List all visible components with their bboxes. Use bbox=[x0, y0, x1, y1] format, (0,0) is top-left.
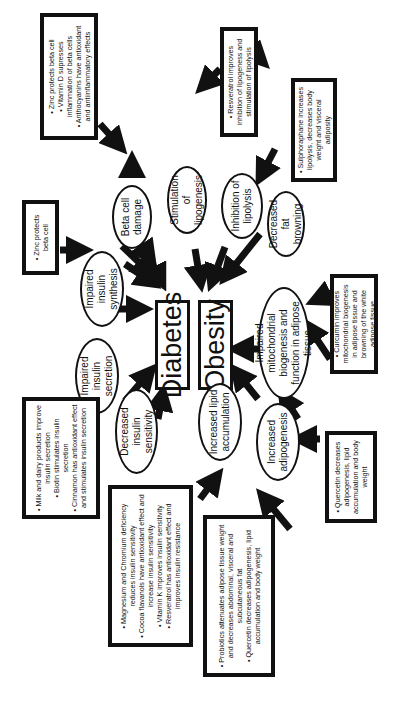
node-label: Beta cell damage bbox=[120, 191, 144, 243]
obesity-label: Obesity bbox=[200, 299, 231, 391]
intervention-item: • Zinc protects beta cell bbox=[32, 207, 50, 268]
node-label: Impaired mitochondrial biogenesis and fu… bbox=[254, 293, 314, 393]
node-label: Stimulation of lipogenesis bbox=[169, 172, 205, 228]
node-label: Increased adipogenesis bbox=[266, 409, 290, 475]
inhibition-of-lipolysis-node: Inhibition of lipolysis bbox=[221, 173, 263, 239]
lipolysis-interventions: • Sulphoraphane increases lipolysis, dec… bbox=[291, 78, 337, 182]
stimulation-of-lipogenesis-node: Stimulation of lipogenesis bbox=[167, 166, 207, 234]
intervention-item: • Cocoa flavanols have antioxidant effec… bbox=[137, 492, 155, 640]
decreased-insulin-sensitivity-node: Decreased insulin sensitivity bbox=[115, 389, 158, 474]
intervention-item: • Quercetin decreases adipogenesis, lipi… bbox=[244, 522, 262, 670]
intervention-item: • Biotin stimulates insulin secretion bbox=[52, 404, 70, 512]
impaired-insulin-synthesis-node: Impaired insulin synthesis bbox=[80, 251, 124, 327]
intervention-item: • Resveratrol improves inhibition of lip… bbox=[226, 34, 253, 130]
node-label: Impaired insulin synthesis bbox=[84, 257, 120, 321]
intervention-item: • Sulphoraphane increases lipolysis, dec… bbox=[296, 85, 332, 175]
obesity-box: Obesity bbox=[198, 300, 233, 390]
insulin-synthesis-interventions: • Zinc protects beta cell bbox=[22, 200, 59, 275]
intervention-item: • Magnesium and Chromium deficiency redu… bbox=[119, 492, 137, 640]
lipid-accumulation-interventions: • Probiotics attenuates adipose tissue w… bbox=[203, 515, 275, 677]
intervention-item: • Vitamin D supresses inflammation of be… bbox=[56, 20, 74, 133]
node-label: Decreased insulin sensitivity bbox=[119, 395, 155, 468]
impaired-mitochondrial-node: Impaired mitochondrial biogenesis and fu… bbox=[258, 287, 310, 399]
intervention-item: • Anthocyanins have antioxidant and anti… bbox=[74, 20, 92, 133]
mitochondrial-interventions: • Curcumin improves mitochondrial biogen… bbox=[330, 274, 378, 374]
insulin-sensitivity-interventions: • Magnesium and Chromium deficiency redu… bbox=[108, 485, 193, 647]
insulin-secretion-interventions: • Milk and dairy products improve insuli… bbox=[22, 397, 100, 519]
increased-adipogenesis-node: Increased adipogenesis bbox=[256, 403, 300, 481]
node-label: Inhibition of lipolysis bbox=[230, 179, 254, 233]
node-label: Decreased fat browning bbox=[268, 197, 304, 251]
lipogenesis-interventions: • Resveratrol improves inhibition of lip… bbox=[220, 27, 258, 137]
diabetes-label: Diabetes bbox=[157, 292, 188, 399]
beta-cell-damage-node: Beta cell damage bbox=[112, 185, 152, 249]
diagram-canvas: Diabetes Obesity Beta cell damage Impair… bbox=[0, 0, 403, 719]
intervention-item: • Probiotics attenuates adipose tissue w… bbox=[217, 522, 244, 670]
intervention-item: • Vitamin K improves insulin sensitivity bbox=[155, 492, 164, 640]
intervention-item: • Curcumin improves mitochondrial biogen… bbox=[332, 281, 377, 367]
intervention-item: • Resveratrol has antioxidant effect and… bbox=[164, 492, 182, 640]
intervention-item: • Zinc protects beta cell bbox=[47, 20, 56, 133]
node-label: Increased lipid accumulation bbox=[208, 389, 232, 455]
increased-lipid-accumulation-node: Increased lipid accumulation bbox=[198, 383, 242, 461]
intervention-item: • Milk and dairy products improve insuli… bbox=[34, 404, 52, 512]
beta-cell-interventions: • Zinc protects beta cell • Vitamin D su… bbox=[40, 13, 98, 140]
intervention-item: • Cinnamon has antioxidant effect and st… bbox=[70, 404, 88, 512]
diabetes-box: Diabetes bbox=[155, 300, 190, 390]
adipogenesis-interventions: • Quercetin decreases adipogenesis, lipi… bbox=[325, 431, 377, 523]
decreased-fat-browning-node: Decreased fat browning bbox=[267, 191, 305, 257]
intervention-item: • Quercetin decreases adipogenesis, lipi… bbox=[333, 438, 369, 516]
